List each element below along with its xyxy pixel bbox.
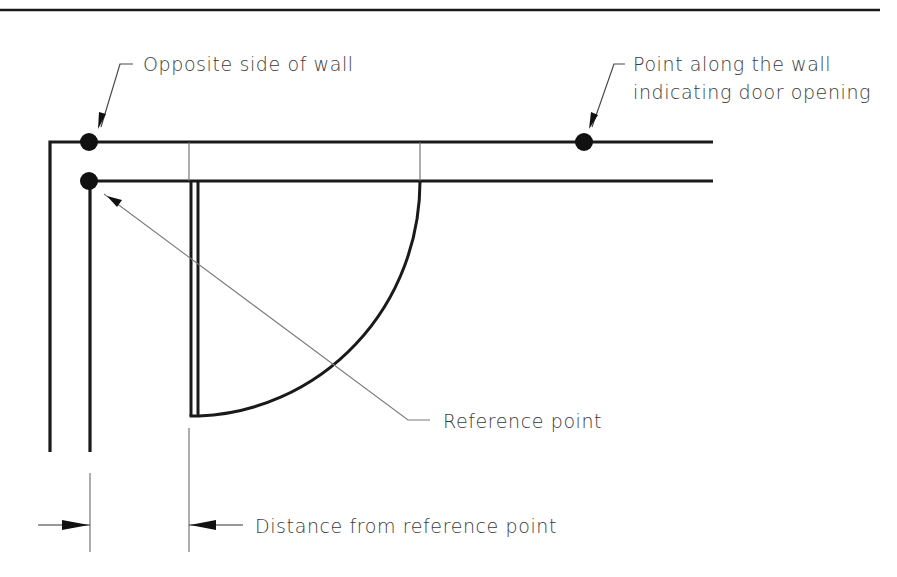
opposite-side-dot: [80, 133, 98, 151]
reference-point-dot: [80, 172, 98, 190]
leader-arrow-icon: [98, 112, 106, 129]
door-location-diagram: Opposite side of wall Point along the wa…: [0, 0, 897, 577]
dimension-arrow-right-icon: [62, 520, 89, 530]
dimension-arrow-left-icon: [190, 520, 216, 530]
opposite-side-label: Opposite side of wall: [143, 53, 354, 75]
door-swing-arc: [199, 181, 420, 416]
door-leaf: [190, 181, 200, 416]
outer-wall-line: [50, 142, 713, 452]
inner-wall-line: [90, 181, 713, 452]
reference-point-callout: Reference point: [104, 194, 602, 432]
door-point-label-line1: Point along the wall: [633, 53, 831, 75]
opposite-side-callout: Opposite side of wall: [98, 53, 354, 129]
distance-label: Distance from reference point: [255, 515, 557, 537]
door-opening-point-dot: [575, 133, 593, 151]
distance-dimension: Distance from reference point: [38, 428, 557, 552]
reference-point-label: Reference point: [443, 410, 602, 432]
leader-arrow-icon: [589, 112, 598, 129]
door-point-label-line2: indicating door opening: [633, 81, 871, 103]
door-point-callout: Point along the wall indicating door ope…: [589, 53, 871, 129]
